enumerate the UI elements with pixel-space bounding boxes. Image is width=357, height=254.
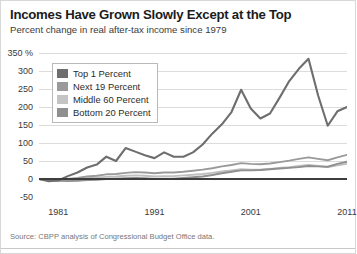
y-axis: 350 %300250200150100500-50 — [1, 46, 37, 206]
chart-legend: Top 1 PercentNext 19 PercentMiddle 60 Pe… — [52, 63, 158, 123]
y-axis-tick-label: 250 — [18, 84, 33, 94]
legend-swatch-icon — [57, 82, 68, 91]
legend-item-label: Next 19 Percent — [73, 81, 140, 92]
y-axis-tick-label: 150 — [18, 120, 33, 130]
y-axis-tick-label: 350 % — [7, 48, 33, 58]
source-note: Source: CBPP analysis of Congressional B… — [10, 232, 214, 241]
chart-subtitle: Percent change in real after-tax income … — [10, 24, 227, 35]
x-axis-tick-label: 1981 — [48, 207, 68, 217]
y-axis-tick-label: 0 — [28, 174, 33, 184]
legend-item-label: Top 1 Percent — [73, 68, 131, 79]
x-axis-tick-label: 1991 — [144, 207, 164, 217]
x-axis-tick-label: 2011 — [337, 207, 356, 217]
y-axis-tick-label: -50 — [20, 192, 33, 202]
legend-item: Next 19 Percent — [57, 80, 151, 93]
legend-item-label: Middle 60 Percent — [73, 94, 149, 105]
legend-item-label: Bottom 20 Percent — [73, 107, 151, 118]
legend-item: Bottom 20 Percent — [57, 106, 151, 119]
y-axis-tick-label: 100 — [18, 138, 33, 148]
legend-swatch-icon — [57, 69, 68, 78]
footer-divider — [1, 248, 355, 249]
legend-item: Top 1 Percent — [57, 67, 151, 80]
y-axis-tick-label: 50 — [23, 156, 33, 166]
y-axis-tick-label: 200 — [18, 102, 33, 112]
x-axis-tick-label: 2001 — [241, 207, 261, 217]
legend-item: Middle 60 Percent — [57, 93, 151, 106]
x-axis: 1981199120012011 — [39, 207, 347, 223]
legend-swatch-icon — [57, 108, 68, 117]
chart-title: Incomes Have Grown Slowly Except at the … — [10, 7, 291, 22]
legend-swatch-icon — [57, 95, 68, 104]
y-axis-tick-label: 300 — [18, 66, 33, 76]
